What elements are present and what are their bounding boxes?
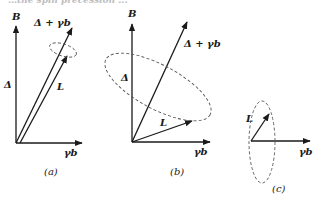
l-label: L: [56, 81, 64, 92]
l-label: L: [159, 117, 167, 128]
l-vector: [251, 114, 269, 141]
delta-label: Δ: [120, 72, 129, 83]
caption-a: (a): [44, 166, 58, 177]
gamma-b-label: γb: [299, 146, 313, 157]
header-cutoff-text: …the spin precession ...: [8, 0, 128, 5]
sum-vector-label: Δ + γb: [183, 38, 221, 49]
delta-label: Δ: [3, 79, 12, 90]
precession-ellipse: [96, 40, 221, 134]
panel-c: L γb (c): [245, 101, 313, 194]
b-axis-label: B: [11, 11, 20, 22]
b-axis-label: B: [127, 8, 136, 19]
gamma-b-label: γb: [64, 147, 78, 158]
gamma-b-label: γb: [194, 146, 208, 157]
caption-b: (b): [170, 166, 184, 177]
panel-a: B Δ + γb Δ L γb (a): [3, 11, 82, 177]
precession-diagram: …the spin precession ... B Δ + γb Δ L γb…: [0, 0, 320, 200]
l-label: L: [245, 113, 253, 124]
l-vector: [20, 56, 67, 143]
panel-b: B Δ + γb Δ L γb (b): [96, 8, 221, 177]
caption-c: (c): [272, 183, 286, 194]
sum-vector-label: Δ + γb: [33, 17, 71, 28]
precession-ellipse: [48, 40, 78, 60]
